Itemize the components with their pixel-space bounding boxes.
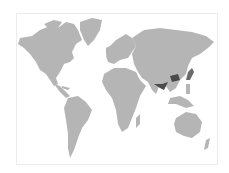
greenland — [80, 18, 102, 46]
south-america — [64, 96, 92, 158]
arctic-islands — [44, 20, 62, 28]
new-zealand — [204, 138, 210, 150]
asia — [132, 28, 214, 94]
madagascar — [136, 114, 140, 128]
north-america — [18, 22, 82, 86]
uk — [106, 46, 110, 54]
australia — [174, 112, 202, 138]
world-map — [0, 0, 229, 173]
southeast-asia-islands — [168, 96, 194, 108]
philippines — [186, 84, 190, 94]
europe — [106, 34, 136, 64]
highlight-japan — [186, 68, 194, 80]
